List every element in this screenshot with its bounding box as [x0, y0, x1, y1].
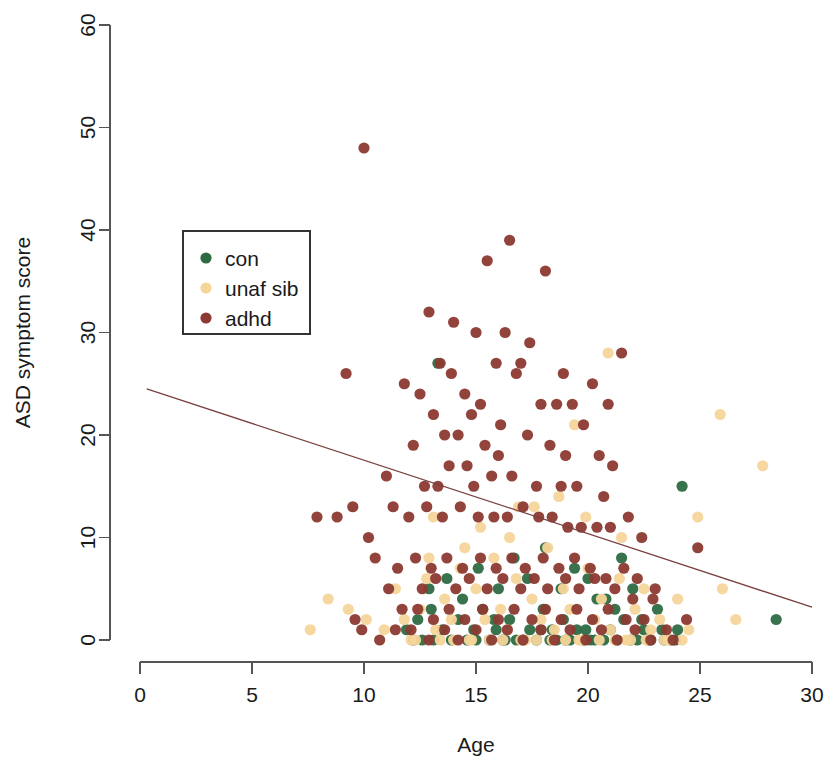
data-point	[578, 419, 589, 430]
data-point	[506, 552, 517, 563]
data-point	[569, 552, 580, 563]
data-point	[381, 470, 392, 481]
regression-line-layer	[147, 389, 812, 607]
data-point	[605, 522, 616, 533]
data-point	[636, 532, 647, 543]
x-axis-tick-label: 15	[464, 683, 487, 706]
data-point	[412, 614, 423, 625]
data-point	[412, 604, 423, 615]
data-point	[488, 511, 499, 522]
data-point	[374, 634, 385, 645]
data-point	[661, 624, 672, 635]
data-point	[517, 634, 528, 645]
data-point	[470, 327, 481, 338]
data-point	[549, 624, 560, 635]
x-axis-tick-label: 25	[688, 683, 711, 706]
data-point	[573, 583, 584, 594]
data-point	[515, 358, 526, 369]
data-point	[535, 624, 546, 635]
x-axis-tick-label: 0	[134, 683, 146, 706]
data-point	[455, 501, 466, 512]
data-point	[444, 604, 455, 615]
data-point	[511, 573, 522, 584]
legend-label-unaf-sib: unaf sib	[225, 277, 299, 300]
data-point	[508, 604, 519, 615]
data-point	[439, 429, 450, 440]
data-point	[305, 624, 316, 635]
series-adhd	[311, 142, 703, 645]
data-point	[511, 368, 522, 379]
data-point	[349, 614, 360, 625]
data-point	[470, 583, 481, 594]
data-point	[647, 593, 658, 604]
data-point	[414, 388, 425, 399]
data-point	[524, 624, 535, 635]
data-point	[529, 573, 540, 584]
data-point	[681, 614, 692, 625]
data-point	[553, 563, 564, 574]
data-point	[715, 409, 726, 420]
data-point	[423, 306, 434, 317]
data-point	[638, 614, 649, 625]
data-point	[564, 624, 575, 635]
data-point	[439, 593, 450, 604]
legend-swatch-unaf-sib	[200, 282, 211, 293]
data-point	[419, 481, 430, 492]
y-axis-title: ASD symptom score	[11, 237, 34, 428]
data-point	[654, 614, 665, 625]
data-point	[403, 511, 414, 522]
data-point	[587, 378, 598, 389]
data-point	[629, 624, 640, 635]
data-point	[500, 327, 511, 338]
data-point	[379, 624, 390, 635]
data-point	[522, 429, 533, 440]
data-point	[504, 235, 515, 246]
data-point	[614, 573, 625, 584]
data-point	[488, 552, 499, 563]
data-point	[491, 624, 502, 635]
data-point	[417, 583, 428, 594]
data-point	[596, 593, 607, 604]
data-point	[426, 604, 437, 615]
data-points-layer	[305, 142, 782, 645]
legend-label-con: con	[225, 247, 259, 270]
data-point	[569, 563, 580, 574]
data-point	[616, 347, 627, 358]
data-point	[504, 614, 515, 625]
data-point	[493, 583, 504, 594]
data-point	[495, 604, 506, 615]
data-point	[493, 614, 504, 625]
y-axis-tick-label: 40	[76, 218, 99, 241]
data-point	[479, 614, 490, 625]
x-axis-tick-label: 5	[246, 683, 258, 706]
data-point	[542, 583, 553, 594]
regression-line	[147, 389, 812, 607]
data-point	[430, 573, 441, 584]
data-point	[757, 460, 768, 471]
data-point	[358, 142, 369, 153]
data-point	[596, 624, 607, 635]
data-point	[580, 511, 591, 522]
data-point	[468, 481, 479, 492]
data-point	[717, 583, 728, 594]
x-axis-tick-label: 30	[800, 683, 823, 706]
data-point	[435, 358, 446, 369]
data-point	[668, 634, 679, 645]
data-point	[340, 368, 351, 379]
data-point	[466, 409, 477, 420]
data-point	[423, 634, 434, 645]
data-point	[448, 317, 459, 328]
data-point	[638, 583, 649, 594]
data-point	[446, 614, 457, 625]
y-axis-tick-label: 0	[76, 634, 99, 646]
data-point	[396, 604, 407, 615]
data-point	[502, 511, 513, 522]
data-point	[491, 358, 502, 369]
data-point	[553, 491, 564, 502]
data-point	[459, 542, 470, 553]
data-point	[450, 583, 461, 594]
x-axis-title: Age	[457, 733, 494, 756]
data-point	[452, 429, 463, 440]
legend-swatch-con	[200, 252, 211, 263]
data-point	[473, 511, 484, 522]
